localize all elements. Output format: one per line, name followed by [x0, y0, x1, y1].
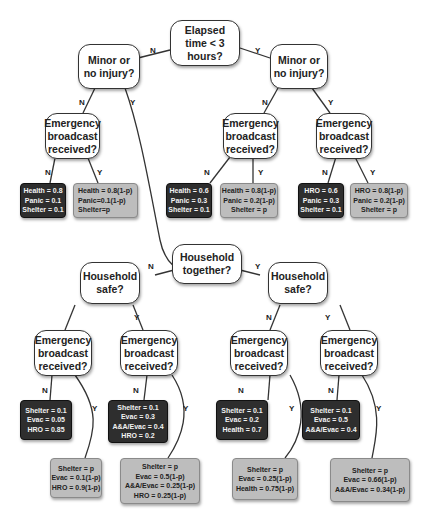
leaf-outcome: Shelter = 0.1 Evac = 0.2 Health = 0.7	[216, 400, 268, 440]
branch-label-y: Y	[328, 98, 333, 107]
branch-label-n: N	[45, 168, 51, 177]
branch-label-y: Y	[134, 313, 139, 322]
node-emergency-broadcast: Emergency broadcast received?	[320, 330, 378, 376]
branch-label-y: Y	[258, 168, 263, 177]
branch-label-n: N	[322, 168, 328, 177]
branch-label-n: N	[133, 386, 139, 395]
node-household-safe-left: Household safe?	[80, 262, 140, 304]
branch-label-y: Y	[92, 404, 97, 413]
leaf-outcome: HRO = 0.6 Panic = 0.3 Shelter = 0.1	[298, 183, 344, 218]
leaf-outcome: Health = 0.8 Panic = 0.1 Shelter = 0.1	[20, 183, 66, 218]
leaf-outcome: Shelter = 0.1 Evac = 0.05 HRO = 0.85	[20, 400, 72, 440]
leaf-outcome: HRO = 0.8(1-p) Panic = 0.2(1-p) Shelter …	[350, 183, 408, 218]
branch-label-y: Y	[376, 404, 381, 413]
leaf-outcome: Shelter = p Evac = 0.1(1-p) HRO = 0.9(1-…	[50, 458, 102, 498]
leaf-outcome: Shelter = p Evac = 0.5(1-p) A&A/Evac = 0…	[120, 458, 200, 504]
branch-label-n: N	[204, 168, 210, 177]
node-minor-injury-left: Minor or no injury?	[78, 44, 140, 89]
leaf-outcome: Health = 0.8(1-p) Panic = 0.2(1-p) Shelt…	[220, 183, 278, 218]
branch-label-y: Y	[325, 313, 330, 322]
branch-label-y: Y	[183, 404, 188, 413]
branch-label-y: Y	[255, 46, 260, 55]
leaf-outcome: Health = 0.8(1-p) Panic=0.1(1-p) Shelter…	[73, 183, 138, 218]
branch-label-n: N	[79, 98, 85, 107]
node-emergency-broadcast: Emergency broadcast received?	[34, 330, 92, 376]
branch-label-n: N	[328, 386, 334, 395]
leaf-outcome: Shelter = p Evac = 0.66(1-p) A&A/Evac = …	[330, 458, 410, 502]
leaf-outcome: Health = 0.6 Panic = 0.3 Shelter = 0.1	[166, 183, 212, 218]
branch-label-y: Y	[289, 404, 294, 413]
branch-label-n: N	[150, 46, 156, 55]
branch-label-y: Y	[370, 168, 375, 177]
node-emergency-broadcast: Emergency broadcast received?	[230, 330, 288, 376]
branch-label-n: N	[266, 313, 272, 322]
branch-label-y: Y	[97, 168, 102, 177]
branch-label-n: N	[148, 262, 154, 271]
branch-label-n: N	[42, 386, 48, 395]
node-household-safe-right: Household safe?	[268, 262, 328, 304]
node-emergency-broadcast: Emergency broadcast received?	[223, 113, 278, 159]
leaf-outcome: Shelter = p Evac = 0.25(1-p) Health = 0.…	[232, 458, 298, 500]
node-emergency-broadcast: Emergency broadcast received?	[120, 330, 178, 376]
node-minor-injury-right: Minor or no injury?	[270, 44, 328, 89]
branch-label-n: N	[238, 386, 244, 395]
node-household-together: Household together?	[172, 244, 242, 284]
leaf-outcome: Shelter = 0.1 Evac = 0.3 A&A/Evac = 0.4 …	[108, 400, 168, 443]
branch-label-y: Y	[255, 262, 260, 271]
leaf-outcome: Shelter = 0.1 Evac = 0.5 A&A/Evac = 0.4	[302, 400, 360, 440]
node-elapsed-time: Elapsed time < 3 hours?	[170, 20, 240, 66]
node-emergency-broadcast: Emergency broadcast received?	[316, 113, 372, 159]
branch-label-y: Y	[130, 98, 135, 107]
node-emergency-broadcast: Emergency broadcast received?	[45, 113, 100, 159]
branch-label-n: N	[262, 98, 268, 107]
